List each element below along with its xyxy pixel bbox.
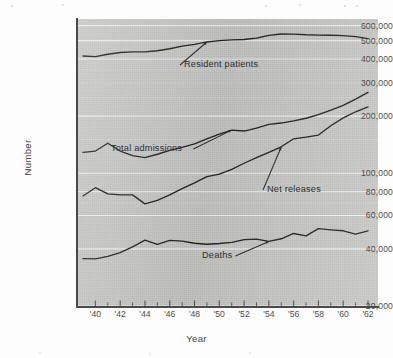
y-tick-label: 500,000 — [323, 36, 393, 46]
y-tick-label: 40,000 — [323, 244, 393, 254]
x-tick-label: '46 — [164, 309, 175, 319]
annotation-resident-patients: Resident patients — [184, 59, 258, 69]
y-tick-label: 600,000 — [323, 21, 393, 31]
x-tick-label: '50 — [214, 309, 225, 319]
x-tick-label: '56 — [288, 309, 299, 319]
annotation-net-releases: Net releases — [267, 184, 321, 194]
y-tick-label: 60,000 — [323, 210, 393, 220]
x-tick-label: '54 — [263, 309, 274, 319]
annotation-total-admissions: Total admissions — [111, 143, 182, 153]
scan-artifact-top — [0, 0, 393, 14]
annotation-pointers — [180, 42, 281, 256]
chart-figure: 600,000500,000400,000300,000200,000100,0… — [0, 0, 393, 358]
y-axis-line — [76, 18, 78, 307]
annotation-deaths: Deaths — [202, 250, 232, 260]
x-tick-label: '42 — [115, 309, 126, 319]
x-tick-label: '44 — [139, 309, 150, 319]
y-tick-label: 80,000 — [323, 187, 393, 197]
y-tick-label: 300,000 — [323, 78, 393, 88]
y-tick-label: 100,000 — [323, 168, 393, 178]
y-tick-label: 400,000 — [323, 54, 393, 64]
scan-artifact-bottom — [0, 349, 393, 358]
y-tick-label: 200,000 — [323, 111, 393, 121]
x-tick-label: '60 — [338, 309, 349, 319]
x-tick-label: '52 — [238, 309, 249, 319]
x-tick-label: '48 — [189, 309, 200, 319]
x-axis-title: Year — [0, 333, 393, 344]
y-axis-title: Number — [22, 118, 33, 198]
x-tick-label: '40 — [90, 309, 101, 319]
x-tick-label: '62 — [362, 309, 373, 319]
y-tick-label: 20,000 — [323, 301, 393, 311]
x-tick-label: '58 — [313, 309, 324, 319]
